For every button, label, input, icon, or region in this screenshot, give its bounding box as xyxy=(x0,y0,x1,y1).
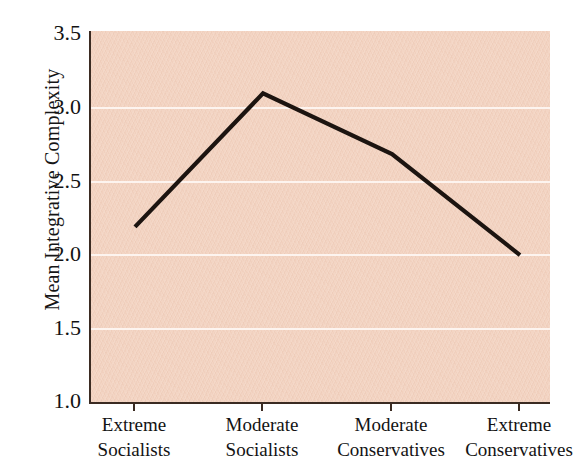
series-line xyxy=(91,31,550,402)
y-tick-label-2-5: 2.5 xyxy=(21,168,81,194)
y-tick-label-1-5: 1.5 xyxy=(21,315,81,341)
line-chart-figure: Mean Integrative Complexity 3.5 3.0 2.5 … xyxy=(0,0,580,474)
x-tick-extreme-socialists xyxy=(133,402,135,411)
y-axis-tick-labels: 3.5 3.0 2.5 2.0 1.5 1.0 xyxy=(0,0,89,474)
x-category-line1-0: Extreme xyxy=(102,414,166,435)
x-tick-moderate-conservatives xyxy=(390,402,392,411)
x-category-line1-1: Moderate xyxy=(226,414,299,435)
y-tick-label-2-0: 2.0 xyxy=(21,241,81,267)
y-tick-label-3-0: 3.0 xyxy=(21,94,81,120)
x-category-label-extreme-conservatives: Extreme Conservatives xyxy=(435,412,580,462)
plot-area xyxy=(89,31,550,404)
x-category-line1-2: Moderate xyxy=(355,414,428,435)
x-category-line1-3: Extreme xyxy=(487,414,551,435)
x-tick-moderate-socialists xyxy=(261,402,263,411)
x-category-line2-3: Conservatives xyxy=(435,437,580,462)
series-polyline xyxy=(135,93,520,255)
y-tick-label-1-0: 1.0 xyxy=(21,388,81,414)
y-tick-label-3-5: 3.5 xyxy=(21,20,81,46)
x-tick-extreme-conservatives xyxy=(518,402,520,411)
